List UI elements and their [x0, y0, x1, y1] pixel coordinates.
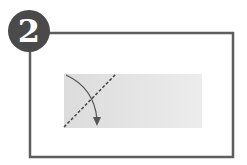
step-number: 2 — [8, 10, 50, 52]
paper-rectangle — [64, 74, 202, 128]
